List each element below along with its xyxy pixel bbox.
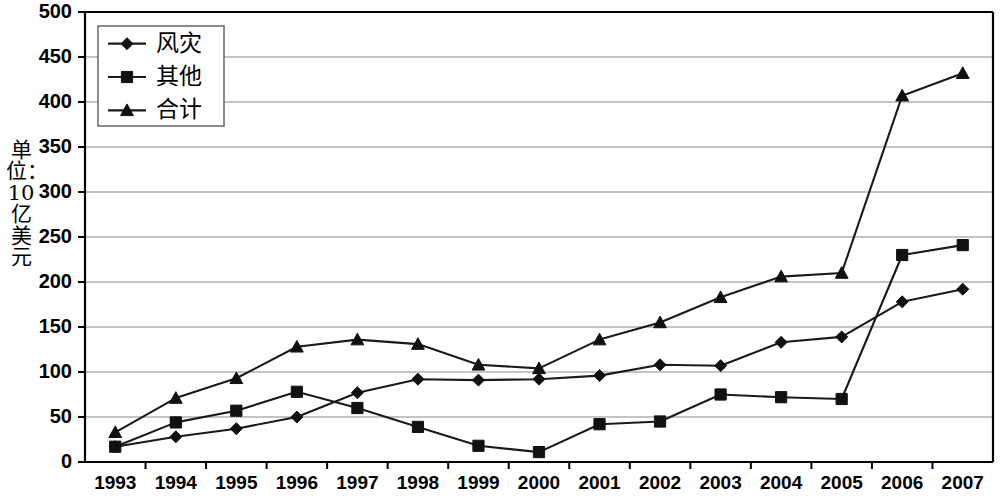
y-axis-title: 单位：10亿美元 [6,140,36,268]
y-tick-label: 250 [39,225,72,247]
y-tick-label: 400 [39,90,72,112]
data-point-marker [291,386,302,397]
data-point-marker [110,441,121,452]
x-tick-label: 1998 [397,472,439,493]
x-tick-label: 2004 [760,472,803,493]
data-point-marker [352,402,363,413]
y-tick-label: 200 [39,270,72,292]
y-tick-label: 150 [39,315,72,337]
legend-label: 风灾 [156,30,202,56]
data-point-marker [957,240,968,251]
data-point-marker [836,393,847,404]
data-point-marker [473,440,484,451]
y-tick-label: 0 [61,450,72,472]
x-tick-label: 1997 [336,472,378,493]
x-tick-label: 2007 [942,472,984,493]
y-tick-label: 50 [50,405,72,427]
data-point-marker [776,392,787,403]
data-point-marker [594,419,605,430]
x-tick-label: 1995 [215,472,258,493]
data-point-marker [412,421,423,432]
data-point-marker [897,249,908,260]
x-tick-label: 2006 [881,472,923,493]
y-tick-label: 100 [39,360,72,382]
x-tick-label: 2005 [821,472,864,493]
legend-marker-square-icon [121,71,132,82]
x-tick-label: 2000 [518,472,560,493]
x-tick-label: 2003 [699,472,741,493]
line-chart: 050100150200250300350400450500 199319941… [0,0,1005,497]
chart-legend: 风灾其他合计 [98,26,224,126]
x-tick-label: 2002 [639,472,681,493]
x-tick-label: 1999 [457,472,499,493]
x-tick-label: 2001 [578,472,621,493]
data-point-marker [654,416,665,427]
x-tick-label: 1996 [276,472,318,493]
chart-container: 单位：10亿美元 050100150200250300350400450500 … [0,0,1005,497]
y-tick-label: 500 [39,0,72,22]
data-point-marker [715,389,726,400]
x-tick-label: 1994 [155,472,198,493]
y-tick-label: 450 [39,45,72,67]
data-point-marker [533,447,544,458]
legend-label: 其他 [156,63,202,89]
x-tick-label: 1993 [94,472,136,493]
y-tick-label: 300 [39,180,72,202]
data-point-marker [231,405,242,416]
y-tick-label: 350 [39,135,72,157]
data-point-marker [170,417,181,428]
legend-label: 合计 [156,96,202,122]
